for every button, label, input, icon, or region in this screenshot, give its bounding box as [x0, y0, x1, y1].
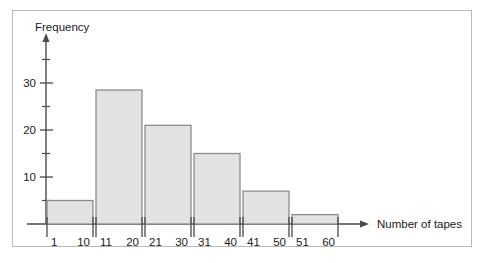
y-tick-label-30: 30 — [23, 77, 36, 89]
x-axis-tick-labels: 1 10 11 20 21 30 31 40 41 50 51 60 — [51, 236, 335, 246]
bar-bin-2 — [96, 90, 142, 224]
chart-frame: Frequency Number of tapes 10 20 30 — [12, 10, 472, 247]
y-tick-label-20: 20 — [23, 124, 36, 136]
histogram-svg: Frequency Number of tapes 10 20 30 — [13, 11, 471, 246]
x-axis-title: Number of tapes — [377, 218, 462, 230]
bar-bin-4 — [194, 154, 240, 225]
x-tick-label-41: 41 — [247, 236, 260, 246]
bar-bin-6 — [292, 215, 338, 224]
x-tick-label-40: 40 — [224, 236, 237, 246]
x-tick-label-31: 31 — [198, 236, 211, 246]
bar-bin-1 — [47, 201, 93, 225]
x-axis-arrow-icon — [360, 221, 369, 228]
bar-bin-3 — [145, 125, 191, 224]
x-tick-label-30: 30 — [175, 236, 188, 246]
x-tick-label-20: 20 — [126, 236, 139, 246]
x-tick-label-1: 1 — [51, 236, 57, 246]
x-tick-label-11: 11 — [100, 236, 112, 246]
histogram-bars — [47, 90, 338, 224]
x-tick-label-10: 10 — [77, 236, 90, 246]
y-axis-title: Frequency — [35, 21, 90, 33]
y-tick-label-10: 10 — [23, 171, 36, 183]
x-tick-label-51: 51 — [296, 236, 309, 246]
x-tick-label-50: 50 — [273, 236, 286, 246]
x-tick-label-21: 21 — [149, 236, 162, 246]
y-axis-ticks: 10 20 30 — [23, 77, 53, 183]
histogram-plot-area: Frequency Number of tapes 10 20 30 — [13, 11, 471, 246]
x-tick-label-60: 60 — [322, 236, 335, 246]
bar-bin-5 — [243, 191, 289, 224]
y-axis-arrow-icon — [43, 33, 50, 42]
